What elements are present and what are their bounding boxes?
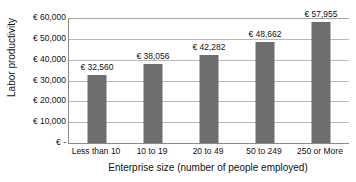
x-tick-label: 10 to 19: [137, 146, 168, 156]
x-tick-label: 20 to 49: [193, 146, 224, 156]
x-tick-label: 50 to 249: [246, 146, 281, 156]
x-axis-tick-labels: Less than 10 10 to 19 20 to 49 50 to 249…: [68, 146, 348, 160]
bar-group: € 38,056: [125, 18, 181, 143]
y-tick-label: € 60,000: [8, 13, 66, 22]
bar-group: € 57,955: [293, 18, 349, 143]
plot-area: € 32,560 € 38,056 € 42,282 € 48,662 € 57…: [68, 18, 349, 144]
bar-group: € 42,282: [181, 18, 237, 143]
y-tick-label: € 10,000: [8, 117, 66, 126]
x-tick-label: Less than 10: [72, 146, 121, 156]
bar[interactable]: [88, 75, 107, 143]
y-axis-tick-labels: € 60,000 € 50,000 € 40,000 € 30,000 € 20…: [4, 0, 66, 182]
bar-value-label: € 57,955: [304, 9, 337, 19]
x-axis-title: Enterprise size (number of people employ…: [68, 162, 348, 174]
bar-group: € 32,560: [69, 18, 125, 143]
bar-value-label: € 48,662: [248, 29, 281, 39]
bar-value-label: € 32,560: [80, 62, 113, 72]
bars-layer: € 32,560 € 38,056 € 42,282 € 48,662 € 57…: [69, 18, 349, 143]
y-tick-label: € 50,000: [8, 34, 66, 43]
bar[interactable]: [144, 64, 163, 143]
y-tick-label: € 40,000: [8, 55, 66, 64]
bar[interactable]: [200, 55, 219, 143]
bar-value-label: € 42,282: [192, 42, 225, 52]
bar-value-label: € 38,056: [136, 51, 169, 61]
bar[interactable]: [312, 22, 331, 143]
y-tick-label: € 20,000: [8, 96, 66, 105]
x-tick-label: 250 or More: [297, 146, 343, 156]
bar-group: € 48,662: [237, 18, 293, 143]
y-tick-label: € -: [8, 138, 66, 147]
bar[interactable]: [256, 42, 275, 143]
y-tick-label: € 30,000: [8, 76, 66, 85]
bar-chart: Labor productivity € 60,000 € 50,000 € 4…: [0, 0, 356, 182]
